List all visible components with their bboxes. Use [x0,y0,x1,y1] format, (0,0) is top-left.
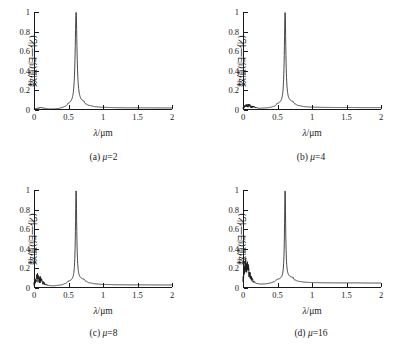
y-tick-label: 0.4 [19,245,30,254]
subplot-caption: (c) μ=8 [0,328,207,338]
x-tick-label: 0 [241,113,245,122]
y-tick-label: 1 [235,8,239,17]
spectrum-curve [243,12,381,110]
y-tick-label: 0 [235,106,239,115]
subplot-c: 数值(归一化)λ/μm00.20.40.60.8100.511.52(c) μ=… [0,178,207,355]
x-tick-label: 2 [379,113,383,122]
y-tick-label: 0.8 [228,27,239,36]
y-tick-label: 0.6 [228,225,239,234]
y-tick-label: 0.4 [228,67,239,76]
x-tick-label: 0 [241,291,245,300]
x-tick-mark [172,105,173,109]
y-tick-label: 0.2 [228,86,239,95]
x-tick-label: 0.5 [272,291,283,300]
y-tick-mark [35,288,39,289]
spectrum-curve [34,190,172,288]
x-tick-label: 0 [32,113,36,122]
x-tick-label: 1 [310,113,314,122]
subplot-caption: (b) μ=4 [207,152,415,162]
y-tick-label: 0.2 [228,264,239,273]
x-tick-label: 1.5 [341,113,352,122]
y-tick-label: 0.2 [19,86,30,95]
y-tick-mark [244,288,248,289]
y-tick-label: 0.6 [228,47,239,56]
x-axis-title: λ/μm [302,306,321,316]
y-tick-label: 0.2 [19,264,30,273]
y-tick-label: 1 [26,186,30,195]
subplot-caption: (d) μ=16 [207,328,415,338]
figure-container: 数值(归一化)λ/μm00.20.40.60.8100.511.52(a) μ=… [0,0,415,355]
y-tick-label: 0.4 [19,67,30,76]
curve-line [34,191,172,286]
x-tick-label: 2 [379,291,383,300]
x-tick-label: 1.5 [132,113,143,122]
y-tick-label: 0.8 [19,27,30,36]
y-tick-label: 0.8 [19,205,30,214]
x-axis-title: λ/μm [302,128,321,138]
y-tick-label: 0.6 [19,47,30,56]
curve-line [34,12,172,109]
y-tick-mark [244,110,248,111]
x-tick-mark [381,105,382,109]
plot-area: 00.20.40.60.8100.511.52 [243,12,381,110]
y-tick-label: 0.6 [19,225,30,234]
x-tick-label: 1 [101,113,105,122]
plot-area: 00.20.40.60.8100.511.52 [243,190,381,288]
y-tick-label: 0.8 [228,205,239,214]
y-tick-label: 0 [26,284,30,293]
x-tick-label: 0.5 [63,291,74,300]
x-tick-label: 2 [170,291,174,300]
x-tick-label: 0 [32,291,36,300]
subplot-caption: (a) μ=2 [0,152,207,162]
x-tick-label: 1.5 [132,291,143,300]
x-tick-label: 0.5 [63,113,74,122]
curve-line [243,13,381,109]
x-tick-label: 1 [101,291,105,300]
x-axis-title: λ/μm [93,306,112,316]
y-tick-label: 1 [235,186,239,195]
x-axis-title: λ/μm [93,128,112,138]
x-tick-label: 2 [170,113,174,122]
subplot-a: 数值(归一化)λ/μm00.20.40.60.8100.511.52(a) μ=… [0,0,207,178]
x-tick-label: 1.5 [341,291,352,300]
y-tick-label: 0 [26,106,30,115]
spectrum-curve [34,12,172,110]
y-tick-mark [35,110,39,111]
y-tick-label: 1 [26,8,30,17]
subplot-d: 数值(归一化)λ/μm00.20.40.60.8100.511.52(d) μ=… [207,178,415,355]
x-tick-mark [381,283,382,287]
plot-area: 00.20.40.60.8100.511.52 [34,12,172,110]
x-tick-mark [172,283,173,287]
plot-area: 00.20.40.60.8100.511.52 [34,190,172,288]
y-tick-label: 0 [235,284,239,293]
subplot-b: 数值(归一化)λ/μm00.20.40.60.8100.511.52(b) μ=… [207,0,415,178]
y-tick-label: 0.4 [228,245,239,254]
x-tick-label: 1 [310,291,314,300]
spectrum-curve [243,190,381,288]
x-tick-label: 0.5 [272,113,283,122]
curve-line [243,191,381,284]
